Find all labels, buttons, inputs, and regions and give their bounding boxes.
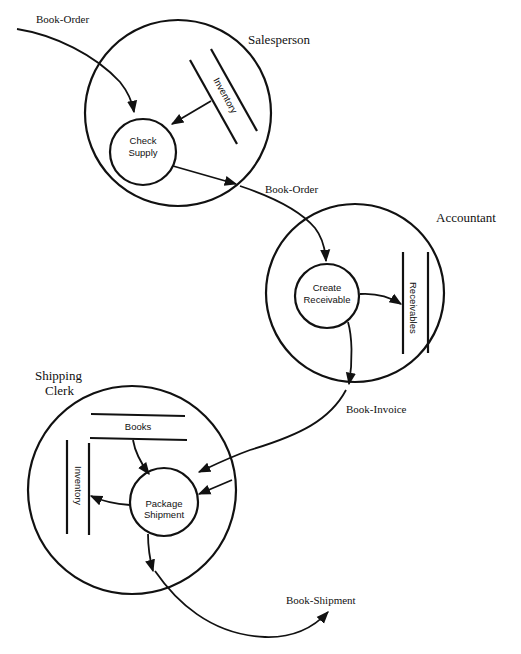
agent-salesperson: Salesperson [85,20,311,206]
flow-arrow-book-invoice-c [199,480,232,494]
agent-accountant: Accountant [266,204,496,382]
flow-arrow-book-shipment-a [148,534,153,571]
agent-label-shipping-clerk-1: Shipping [35,368,82,383]
flow-create-receivable-to-receivables [360,294,401,304]
process-label-check-supply-2: Supply [128,147,157,158]
agent-label-salesperson: Salesperson [248,32,311,47]
agent-label-accountant: Accountant [436,210,496,225]
flow-arrow-book-order-in [17,29,134,112]
flow-book-invoice: Book-Invoice [199,322,407,494]
store-label-inventory-sales: Inventory [211,76,240,116]
store-line-a [91,414,185,416]
process-package-shipment: Package Shipment [130,468,198,536]
store-line-b [90,438,187,440]
store-books: Books [90,414,187,440]
flow-arrow-book-order-2a [173,166,236,184]
process-label-create-receivable-2: Receivable [304,294,351,305]
data-flow-diagram: Salesperson Check Supply Inventory Book-… [0,0,521,654]
flow-book-order-2: Book-Order [173,166,326,261]
process-label-check-supply-1: Check [130,135,157,146]
process-create-receivable: Create Receivable [295,264,359,328]
process-check-supply: Check Supply [110,119,176,185]
flow-books-to-package-shipment [133,440,149,474]
process-label-create-receivable-1: Create [313,282,342,293]
flow-label-book-invoice: Book-Invoice [346,403,407,415]
agent-label-shipping-clerk-2: Clerk [45,383,74,398]
store-label-inventory-shipping: Inventory [73,466,84,505]
flow-book-shipment: Book-Shipment [148,534,356,637]
flow-inventory-to-check-supply [172,101,211,124]
store-label-books: Books [125,421,152,432]
agent-shipping-clerk: Shipping Clerk [28,368,236,594]
flow-label-book-shipment: Book-Shipment [286,594,356,606]
store-receivables: Receivables [403,252,428,354]
flow-arrow-book-order-2b [240,186,326,261]
flow-arrow-book-invoice-b [199,390,346,472]
flow-arrow-book-invoice-a [348,322,352,384]
store-label-receivables: Receivables [408,282,419,334]
flow-label-book-order-in: Book-Order [36,13,89,25]
flow-package-shipment-to-inventory [91,496,130,505]
process-label-package-shipment-1: Package [146,498,183,509]
flow-label-book-order-2: Book-Order [265,183,318,195]
store-inventory-sales: Inventory [190,49,257,144]
agent-circle-salesperson [85,20,271,206]
store-inventory-shipping: Inventory [67,440,89,535]
process-label-package-shipment-2: Shipment [144,509,184,520]
flow-book-order-in: Book-Order [17,13,134,112]
